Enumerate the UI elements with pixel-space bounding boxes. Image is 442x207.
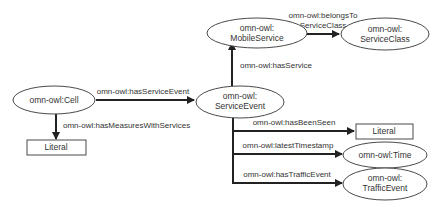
edge-label: omn-owl:hasServiceEvent [97, 87, 190, 96]
node-label: omn-owl:Cell [29, 95, 78, 105]
node-time[interactable]: omn-owl:Time [343, 142, 427, 168]
node-cell[interactable]: omn-owl:Cell [13, 86, 95, 114]
node-traffic-event[interactable]: omn-owl: TrafficEvent [343, 168, 427, 200]
edge-label: omn-owl:hasService [240, 61, 313, 70]
edge-label: omn-owl:belongsTo [289, 11, 358, 20]
node-service-class[interactable]: omn-owl: ServiceClass [341, 18, 429, 50]
node-label: ServiceClass [360, 34, 410, 44]
node-label: ServiceEvent [215, 101, 266, 111]
edge-label: omn-owl:hasMeasuresWithServices [63, 121, 190, 130]
node-label: omn-owl: [368, 173, 402, 183]
node-label: Literal [44, 142, 67, 152]
node-label: MobileService [230, 33, 284, 43]
edge-label: omn-owl:latestTimestamp [243, 141, 334, 150]
edge-has-been-seen: omn-owl:hasBeenSeen [232, 118, 354, 131]
ontology-diagram: omn-owl:belongsTo ServiceClass omn-owl:h… [0, 0, 442, 207]
edge-has-measures-with-services: omn-owl:hasMeasuresWithServices [56, 114, 190, 139]
edge-has-traffic-event: omn-owl:hasTrafficEvent [232, 170, 342, 183]
node-label: TrafficEvent [363, 183, 409, 193]
node-literal-left[interactable]: Literal [27, 140, 86, 155]
node-service-event[interactable]: omn-owl: ServiceEvent [196, 86, 284, 118]
node-label: omn-owl: [368, 24, 402, 34]
edge-latest-timestamp: omn-owl:latestTimestamp [232, 141, 342, 154]
edge-label: omn-owl:hasTrafficEvent [243, 170, 331, 179]
edge-has-service: omn-owl:hasService [232, 43, 313, 87]
node-label: omn-owl: [240, 23, 274, 33]
node-label: Literal [372, 126, 395, 136]
node-mobile-service[interactable]: omn-owl: MobileService [207, 18, 307, 48]
node-label: omn-owl: [223, 91, 257, 101]
node-literal-right[interactable]: Literal [356, 124, 413, 139]
edge-label: ServiceClass [300, 21, 347, 30]
edge-has-service-event: omn-owl:hasServiceEvent [96, 87, 194, 100]
edge-label: omn-owl:hasBeenSeen [253, 118, 336, 127]
node-label: omn-owl:Time [358, 150, 411, 160]
diagram-canvas: omn-owl:belongsTo ServiceClass omn-owl:h… [0, 0, 442, 207]
